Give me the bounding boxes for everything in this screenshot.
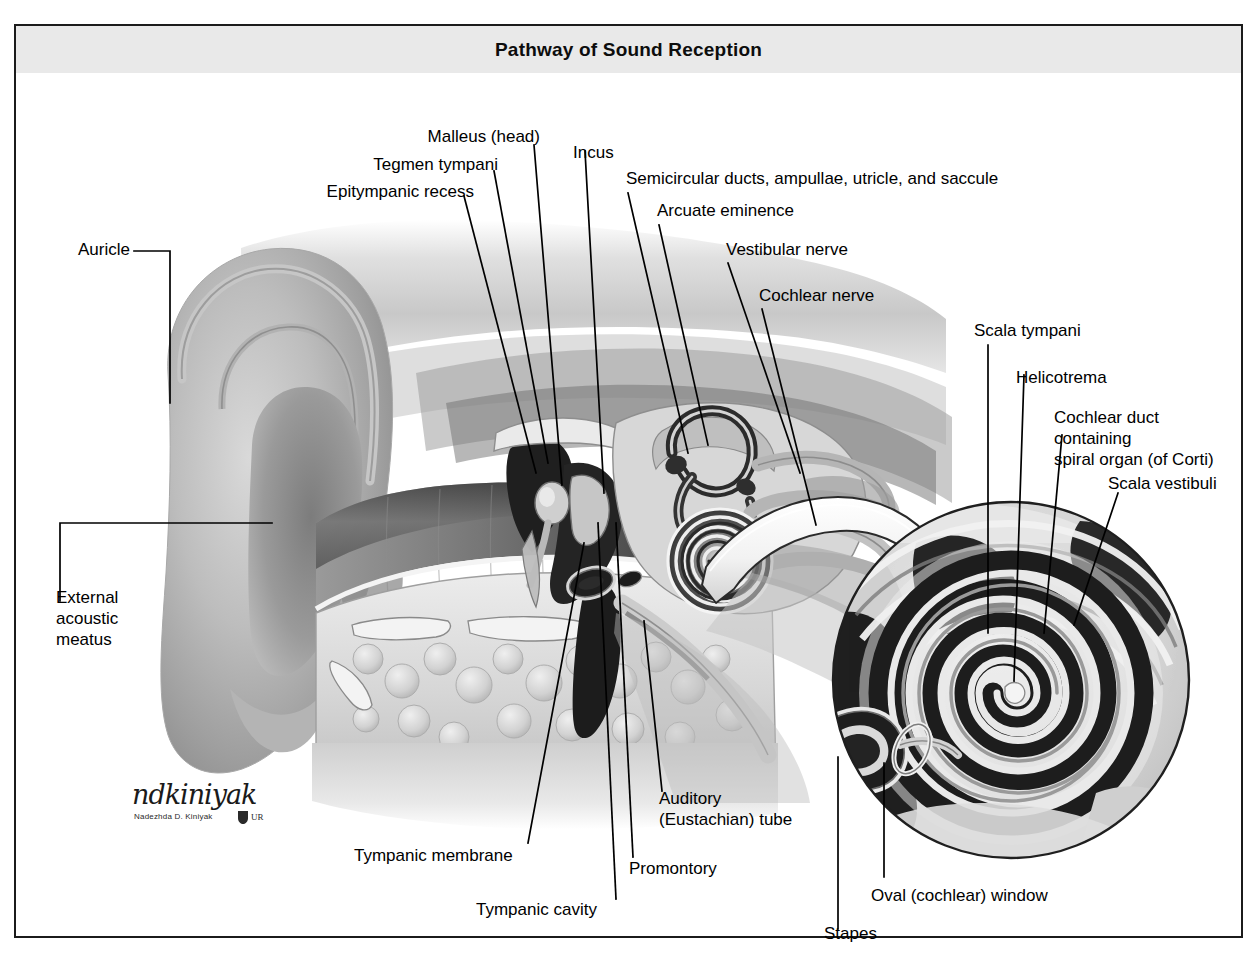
- label-cochlear-nerve: Cochlear nerve: [759, 285, 874, 306]
- label-scala-tympani: Scala tympani: [974, 320, 1081, 341]
- signature-script: ndkiniyak: [132, 779, 256, 810]
- artist-signature: ndkiniyak Nadezhda D. Kiniyak UR: [132, 779, 282, 835]
- label-stapes: Stapes: [824, 923, 877, 944]
- figure-frame: Pathway of Sound Reception: [14, 24, 1243, 938]
- label-epitympanic-recess: Epitympanic recess: [322, 181, 474, 202]
- ur-logo-icon: UR: [236, 809, 276, 825]
- label-cochlear-duct: Cochlear duct containing spiral organ (o…: [1054, 407, 1241, 470]
- anatomy-illustration: Auricle External acoustic meatus Epitymp…: [16, 73, 1241, 936]
- label-tympanic-membrane: Tympanic membrane: [354, 845, 513, 866]
- label-incus: Incus: [573, 142, 614, 163]
- page-title: Pathway of Sound Reception: [495, 39, 762, 61]
- label-malleus-head: Malleus (head): [418, 126, 540, 147]
- label-semicircular-ducts: Semicircular ducts, ampullae, utricle, a…: [626, 168, 998, 189]
- label-vestibular-nerve: Vestibular nerve: [726, 239, 848, 260]
- ur-logo-text: UR: [251, 812, 264, 822]
- label-arcuate-eminence: Arcuate eminence: [657, 200, 794, 221]
- signature-printed-name: Nadezhda D. Kiniyak: [134, 812, 213, 821]
- label-scala-vestibuli: Scala vestibuli: [1108, 473, 1217, 494]
- label-auditory-tube: Auditory (Eustachian) tube: [659, 788, 792, 830]
- label-oval-window: Oval (cochlear) window: [871, 885, 1048, 906]
- label-promontory: Promontory: [629, 858, 717, 879]
- figure-header-band: Pathway of Sound Reception: [16, 26, 1241, 73]
- label-tegmen-tympani: Tegmen tympani: [372, 154, 498, 175]
- label-tympanic-cavity: Tympanic cavity: [476, 899, 597, 920]
- label-auricle: Auricle: [78, 239, 130, 260]
- labels-layer: Auricle External acoustic meatus Epitymp…: [16, 73, 1241, 936]
- figure-page: Pathway of Sound Reception: [0, 0, 1257, 958]
- label-helicotrema: Helicotrema: [1016, 367, 1107, 388]
- label-external-acoustic-meatus: External acoustic meatus: [56, 587, 118, 650]
